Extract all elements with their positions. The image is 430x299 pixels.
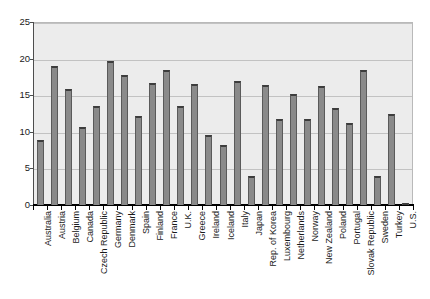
bar (332, 108, 339, 205)
x-axis-tick-label: Austria (58, 211, 67, 239)
x-axis-tick-mark (343, 206, 344, 210)
bar (177, 106, 184, 205)
x-axis-tick-mark (33, 206, 34, 210)
bars-container (33, 22, 413, 205)
x-axis-tick-label: Japan (255, 211, 264, 236)
y-axis-tick-label: 5 (4, 163, 30, 173)
x-axis-tick-mark (132, 206, 133, 210)
x-axis-tick-mark (146, 206, 147, 210)
bar (234, 81, 241, 205)
x-axis-tick-mark (385, 206, 386, 210)
x-axis-tick-mark (230, 206, 231, 210)
bar (205, 135, 212, 205)
x-axis-tick-mark (357, 206, 358, 210)
x-axis-tick-mark (202, 206, 203, 210)
x-axis-tick-mark (117, 206, 118, 210)
x-axis-tick-label: Sweden (381, 211, 390, 244)
x-axis-tick-mark (258, 206, 259, 210)
y-axis-tick-label: 15 (4, 90, 30, 100)
y-axis-tick-label: 0 (4, 200, 30, 210)
y-axis-tick-label: 20 (4, 54, 30, 64)
x-axis-tick-label: Greece (198, 211, 207, 241)
x-axis-tick-label: U.S. (409, 211, 418, 229)
x-axis-tick-label: Belgium (72, 211, 81, 244)
bar (121, 75, 128, 205)
x-axis-tick-mark (286, 206, 287, 210)
x-axis-tick-label: New Zealand (325, 211, 334, 264)
x-axis-tick-label: Denmark (128, 211, 137, 248)
x-axis-tick-label: Australia (44, 211, 53, 246)
x-axis-tick-mark (174, 206, 175, 210)
x-axis-tick-mark (47, 206, 48, 210)
x-axis-tick-mark (314, 206, 315, 210)
x-axis-tick-label: Rep. of Korea (269, 211, 278, 267)
x-axis-tick-label: Portugal (353, 211, 362, 245)
x-axis-tick-mark (103, 206, 104, 210)
x-axis-tick-mark (244, 206, 245, 210)
bar (135, 116, 142, 205)
x-axis-tick-mark (160, 206, 161, 210)
x-axis-tick-mark (75, 206, 76, 210)
bar (402, 203, 409, 205)
bar (107, 61, 114, 205)
x-axis-tick-label: Slovak Republic (367, 211, 376, 276)
x-axis-tick-mark (216, 206, 217, 210)
y-axis: 0510152025 (0, 0, 30, 299)
x-axis-tick-label: Iceland (227, 211, 236, 240)
bar (37, 140, 44, 205)
x-axis-tick-mark (300, 206, 301, 210)
bar (276, 119, 283, 205)
bar (65, 89, 72, 205)
x-axis-tick-label: Netherlands (297, 211, 306, 260)
bar (304, 119, 311, 205)
x-axis-tick-label: Luxembourg (283, 211, 292, 261)
y-axis-tick-label: 10 (4, 127, 30, 137)
bar (93, 106, 100, 205)
y-axis-tick-label: 25 (4, 17, 30, 27)
bar-chart: 0510152025 AustraliaAustriaBelgiumCanada… (0, 0, 430, 299)
bar (191, 84, 198, 205)
x-axis-tick-label: Germany (114, 211, 123, 248)
x-axis-tick-label: Turkey (395, 211, 404, 238)
x-axis-tick-label: Italy (241, 211, 250, 228)
bar (318, 86, 325, 205)
x-axis-labels: AustraliaAustriaBelgiumCanadaCzech Repub… (33, 211, 413, 299)
x-axis-tick-label: Spain (142, 211, 151, 234)
bar (262, 85, 269, 205)
bar (290, 94, 297, 205)
x-axis-tick-mark (61, 206, 62, 210)
bar (51, 66, 58, 205)
bar (149, 83, 156, 205)
bar (220, 145, 227, 205)
x-axis-tick-mark (413, 206, 414, 210)
bar (374, 176, 381, 205)
x-axis-tick-label: Czech Republic (100, 211, 109, 274)
x-axis-tick-mark (188, 206, 189, 210)
bar (163, 70, 170, 205)
x-axis-tick-label: Poland (339, 211, 348, 239)
x-axis-tick-label: Norway (311, 211, 320, 242)
x-axis-tick-label: France (170, 211, 179, 239)
bar (248, 176, 255, 205)
x-axis-tick-label: Finland (156, 211, 165, 241)
x-axis-tick-mark (399, 206, 400, 210)
x-axis-tick-mark (329, 206, 330, 210)
bar (346, 123, 353, 205)
bar (79, 127, 86, 205)
x-axis-tick-mark (272, 206, 273, 210)
bar (388, 114, 395, 206)
x-axis-tick-mark (371, 206, 372, 210)
bar (360, 70, 367, 205)
x-axis-tick-mark (89, 206, 90, 210)
x-axis-tick-label: Ireland (212, 211, 221, 239)
x-axis-tick-label: U.K. (184, 211, 193, 229)
x-axis-tick-label: Canada (86, 211, 95, 243)
